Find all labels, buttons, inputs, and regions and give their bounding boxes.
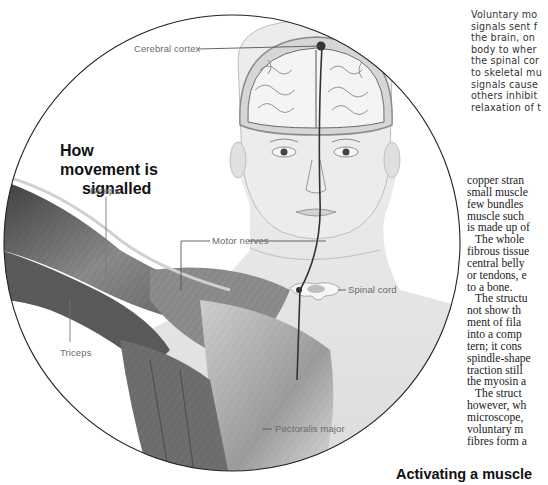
body-paragraphs: copper stran small muscle few bundles mu… <box>467 175 548 447</box>
label-spinal-cord: Spinal cord <box>348 284 397 295</box>
label-pectoralis-major: Pectoralis major <box>275 423 345 434</box>
section-heading: Activating a muscle <box>396 466 532 482</box>
text-line: body to wher <box>471 44 548 56</box>
label-cerebral-cortex: Cerebral cortex <box>134 43 200 54</box>
text-line: Voluntary mo <box>471 9 548 21</box>
text-line: tern; it cons <box>467 341 548 353</box>
text-line: few bundles <box>467 199 548 211</box>
intro-paragraph: Voluntary mo signals sent f the brain, o… <box>471 9 548 113</box>
text-line: or tendons, e <box>467 270 548 282</box>
text-line: the brain, on <box>471 32 548 44</box>
label-biceps: Biceps <box>90 185 119 196</box>
text-line: signals cause <box>471 79 548 91</box>
figure-title-line-1: How <box>60 141 158 160</box>
label-motor-nerves: Motor nerves <box>212 235 269 246</box>
text-line: signals sent f <box>471 21 548 33</box>
figure-title-line-2: movement is <box>60 160 158 179</box>
label-triceps: Triceps <box>60 347 92 358</box>
text-line: spindle-shape <box>467 353 548 365</box>
text-line: central belly <box>467 258 548 270</box>
text-line: voluntary m <box>467 424 548 436</box>
text-line: small muscle <box>467 187 548 199</box>
text-line: to skeletal mu <box>471 67 548 79</box>
text-line: relaxation of t <box>471 102 548 114</box>
text-line: fibres form a <box>467 436 548 448</box>
text-line: others inhibit <box>471 90 548 102</box>
text-line: the spinal cor <box>471 55 548 67</box>
anatomy-illustration <box>0 0 548 485</box>
text-line: microscope, <box>467 412 548 424</box>
